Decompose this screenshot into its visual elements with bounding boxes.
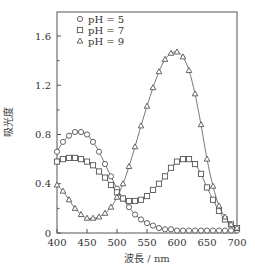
circle-marker [144,221,149,226]
circle-marker [138,217,143,222]
square-marker [216,208,221,213]
circle-marker [84,132,89,137]
square-marker [168,165,173,170]
circle-marker [96,149,101,154]
square-marker [108,182,113,187]
legend: pH = 5pH = 7pH = 9 [77,14,124,47]
x-tick-label: 650 [197,237,216,248]
y-axis-label: 吸光度 [2,107,14,137]
circle-marker [204,228,209,233]
circle-marker [186,228,191,233]
circle-marker [222,228,227,233]
square-marker [174,159,179,164]
circle-marker [78,129,83,134]
legend-label: pH = 9 [88,36,124,47]
square-marker [180,157,185,162]
circle-marker [126,205,131,210]
square-marker [156,181,161,186]
x-tick-label: 450 [77,237,96,248]
circle-marker [132,212,137,217]
square-marker [144,193,149,198]
x-tick-label: 500 [107,237,126,248]
triangle-marker [120,181,126,186]
x-tick-label: 400 [47,237,66,248]
circle-marker [210,228,215,233]
square-marker [126,198,131,203]
square-marker [54,159,59,164]
square-marker [120,196,125,201]
circle-marker [90,139,95,144]
square-marker [162,174,167,179]
triangle-marker [198,122,204,127]
triangle-marker [192,91,198,96]
square-marker [72,155,77,160]
series-triangle [54,49,240,230]
square-marker [210,197,215,202]
square-marker [66,155,71,160]
square-marker [60,157,65,162]
triangle-marker [216,203,222,208]
circle-marker [174,228,179,233]
circle-marker [216,228,221,233]
absorbance-spectrum-chart: 00.40.81.21.6 400450500550600650700 pH =… [0,0,255,279]
circle-marker [198,228,203,233]
legend-square-icon [77,27,82,32]
square-marker [186,157,191,162]
square-marker [204,185,209,190]
y-tick-label: 1.2 [35,80,51,91]
x-tick-label: 550 [137,237,156,248]
triangle-marker [54,182,60,187]
legend-label: pH = 7 [88,25,124,36]
y-tick-label: 1.6 [35,31,51,42]
y-tick-label: 0.4 [35,178,51,189]
circle-marker [228,228,233,233]
legend-circle-icon [77,16,82,21]
square-marker [96,169,101,174]
legend-label: pH = 5 [88,14,124,25]
triangle-marker [186,67,192,72]
series-layer [54,49,240,233]
triangle-marker [126,164,132,169]
x-axis-label: 波長 / nm [124,252,170,264]
square-marker [90,163,95,168]
circle-marker [108,174,113,179]
circle-marker [102,161,107,166]
square-marker [192,161,197,166]
square-marker [150,187,155,192]
circle-marker [66,133,71,138]
circle-marker [54,149,59,154]
square-marker [84,159,89,164]
square-marker [102,175,107,180]
triangle-marker [132,144,138,149]
triangle-marker [144,103,150,108]
triangle-marker [168,50,174,55]
x-tick-label: 700 [227,237,246,248]
circle-marker [168,227,173,232]
circle-marker [156,225,161,230]
square-marker [132,198,137,203]
circle-marker [192,228,197,233]
series-line [57,158,237,228]
circle-marker [72,129,77,134]
triangle-marker [150,85,156,90]
circle-marker [60,139,65,144]
triangle-marker [204,156,210,161]
series-square [54,155,239,230]
x-tick-label: 600 [167,237,186,248]
legend-triangle-icon [77,38,83,43]
square-marker [138,197,143,202]
square-marker [198,171,203,176]
triangle-marker [156,69,162,74]
y-tick-label: 0.8 [35,129,51,140]
circle-marker [150,223,155,228]
circle-marker [162,227,167,232]
square-marker [78,157,83,162]
triangle-marker [138,123,144,128]
circle-marker [180,228,185,233]
triangle-marker [210,183,216,188]
series-line [57,132,237,231]
